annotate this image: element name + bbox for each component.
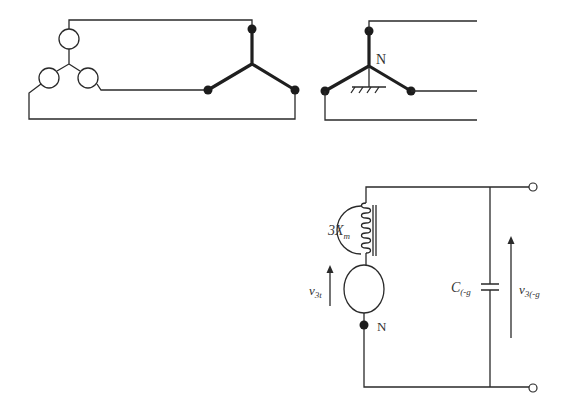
- voltage-source-icon: [344, 265, 384, 313]
- star-arms: [208, 29, 295, 90]
- source-voltage-label: v3t: [309, 283, 322, 300]
- phase-a-source-icon: [59, 29, 79, 49]
- source-voltage-arrow-icon: [327, 265, 334, 306]
- load-star-left: [204, 25, 300, 95]
- phase-b-source-icon: [39, 68, 59, 88]
- output-voltage-arrow-icon: [508, 236, 515, 338]
- inductor-core: [373, 205, 376, 256]
- output-voltage-label: v3(-g: [519, 282, 540, 299]
- generator-star: [29, 20, 295, 119]
- neutral-label-bottom: N: [377, 319, 387, 334]
- wire-phase-c: [97, 84, 208, 90]
- equivalent-circuit: 3Xm v3t N C(-g v3(-g: [309, 183, 540, 392]
- generator-neutral-junction: [57, 49, 80, 71]
- phase-c-source-icon: [78, 68, 98, 88]
- neutral-label: N: [376, 52, 386, 67]
- wire-phase-b: [29, 84, 295, 119]
- circuit-diagram: N 3Xm v3t N C(-g: [0, 0, 568, 396]
- neutral-node-dot: [360, 321, 369, 330]
- top-rail: [366, 187, 529, 203]
- node-dot: [204, 86, 213, 95]
- star-arms: [325, 31, 411, 91]
- ground-icon: [351, 66, 386, 93]
- node-dot: [291, 86, 300, 95]
- node-dot: [248, 25, 257, 34]
- terminal-bottom-icon: [529, 384, 537, 392]
- capacitor-icon: [481, 284, 499, 290]
- terminal-top-icon: [529, 183, 537, 191]
- load-star-right: N: [321, 21, 478, 120]
- wire-phase-a: [69, 20, 252, 29]
- line-out-c: [325, 91, 477, 120]
- bottom-rail: [364, 313, 529, 387]
- line-out-a: [369, 21, 477, 31]
- capacitor-label: C(-g: [451, 280, 471, 297]
